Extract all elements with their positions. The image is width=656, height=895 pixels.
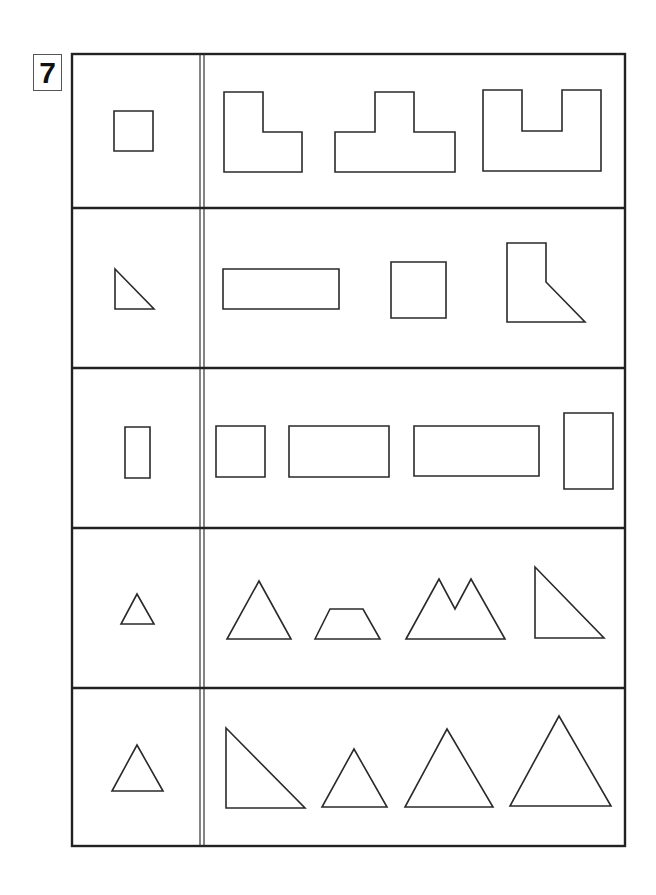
row-1 — [114, 90, 601, 172]
option-3-medium-triangle-shape[interactable] — [405, 729, 493, 807]
row-2 — [115, 243, 585, 322]
option-1-square-shape[interactable] — [216, 426, 265, 477]
reference-triangle-shape — [112, 745, 163, 791]
option-4-tall-rectangle-shape[interactable] — [564, 413, 613, 489]
row-dividers — [72, 208, 625, 688]
row-5 — [112, 716, 611, 808]
option-1-l-shape-shape[interactable] — [224, 92, 302, 172]
row-4 — [121, 567, 604, 639]
option-2-small-triangle-shape[interactable] — [322, 749, 387, 807]
reference-tall-rectangle-shape — [125, 427, 150, 478]
option-1-right-triangle-shape[interactable] — [226, 728, 305, 808]
option-1-triangle-shape[interactable] — [227, 581, 291, 639]
option-4-right-triangle-shape[interactable] — [535, 567, 604, 638]
reference-small-triangle-shape — [121, 594, 154, 624]
option-2-rectangle-shape[interactable] — [289, 426, 389, 477]
reference-right-triangle-shape — [115, 269, 154, 309]
option-1-rectangle-shape[interactable] — [223, 269, 339, 309]
worksheet-page: 7 — [0, 0, 656, 895]
option-2-trapezoid-shape[interactable] — [315, 609, 380, 639]
option-3-m-shape-shape[interactable] — [406, 579, 505, 639]
row-3 — [125, 413, 613, 489]
reference-square-shape — [114, 111, 153, 151]
shapes-layer — [112, 90, 613, 808]
option-3-u-shape-shape[interactable] — [483, 90, 601, 171]
option-3-long-rectangle-shape[interactable] — [414, 426, 539, 476]
option-4-large-triangle-shape[interactable] — [510, 716, 611, 806]
option-2-t-shape-shape[interactable] — [335, 92, 455, 172]
option-2-square-shape[interactable] — [391, 262, 446, 318]
option-3-l-shape-with-slant-shape[interactable] — [507, 243, 585, 322]
shape-matching-grid — [0, 0, 656, 895]
